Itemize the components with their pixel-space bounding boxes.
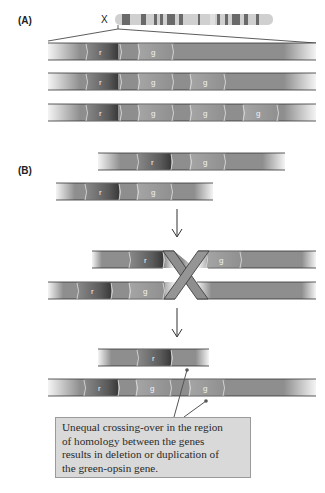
callout-line-4: the green-opsin gene.	[62, 462, 244, 476]
arrow-down-icon	[172, 209, 182, 237]
gene-r-label: r	[99, 78, 102, 87]
gene-g-label: g	[151, 109, 155, 118]
gene-g-label: g	[203, 158, 207, 167]
gene-r-label: r	[99, 188, 102, 197]
gene-g-label: g	[203, 384, 207, 393]
panel-a-row-3: r g g g	[48, 104, 316, 121]
gene-r-label: r	[151, 158, 154, 167]
panel-a-row-1: r g	[48, 43, 316, 60]
callout-line-2: of homology between the genes	[62, 435, 244, 449]
gene-g-label: g	[151, 48, 155, 57]
gene-g-label: g	[203, 78, 207, 87]
gene-r-label: r	[91, 287, 94, 296]
gene-r-label: r	[99, 48, 102, 57]
gene-g-label: g	[150, 384, 154, 393]
explanation-callout: Unequal crossing-over in the region of h…	[55, 417, 251, 478]
gene-g-label: g	[203, 109, 207, 118]
callout-line-1: Unequal crossing-over in the region	[62, 421, 244, 435]
callout-line-3: results in deletion or duplication of	[62, 448, 244, 462]
gene-g-label: g	[256, 109, 260, 118]
zoom-line-right	[118, 29, 316, 43]
panel-b-before-bottom: r g	[56, 183, 213, 200]
panel-b-after-deletion: r	[98, 349, 209, 366]
panel-a-row-2: r g g	[48, 73, 316, 90]
arrow-down-icon	[172, 308, 182, 337]
gene-r-label: r	[144, 256, 147, 265]
x-chromosome	[115, 14, 273, 25]
gene-g-label: g	[219, 256, 223, 265]
panel-b-crossover: r g r g	[48, 251, 316, 299]
zoom-line-left	[48, 29, 118, 41]
panel-b-before-top: r g	[98, 153, 285, 170]
gene-g-label: g	[151, 78, 155, 87]
gene-g-label: g	[143, 287, 147, 296]
gene-g-label: g	[151, 188, 155, 197]
gene-r-label: r	[99, 109, 102, 118]
gene-r-label: r	[98, 384, 101, 393]
gene-r-label: r	[152, 354, 155, 363]
